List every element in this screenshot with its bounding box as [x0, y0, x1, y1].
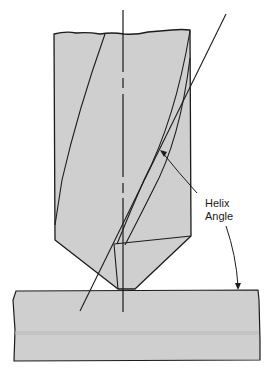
drill-helix-angle-diagram — [0, 0, 270, 367]
arrowhead-lower-icon — [235, 283, 241, 290]
workpiece — [13, 290, 260, 361]
helix-angle-label: Helix Angle — [205, 197, 233, 223]
helix-angle-arrow-lower — [226, 226, 238, 286]
helix-label-line2: Angle — [205, 210, 233, 223]
helix-label-line1: Helix — [205, 197, 233, 210]
